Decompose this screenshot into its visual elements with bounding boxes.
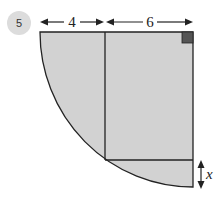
problem-number: 5 (16, 17, 22, 29)
unknown-height-label: x (205, 166, 213, 182)
right-angle-marker (182, 32, 193, 43)
right-width-label: 6 (146, 14, 154, 30)
dimension-left-width: 4 (40, 14, 104, 30)
diagram-canvas: 5 4 6 x (0, 0, 220, 204)
problem-number-badge: 5 (7, 11, 31, 35)
left-width-label: 4 (68, 14, 76, 30)
dimension-right-width: 6 (106, 14, 193, 30)
dimension-unknown-height: x (198, 160, 214, 189)
quarter-circle-region (40, 32, 193, 187)
